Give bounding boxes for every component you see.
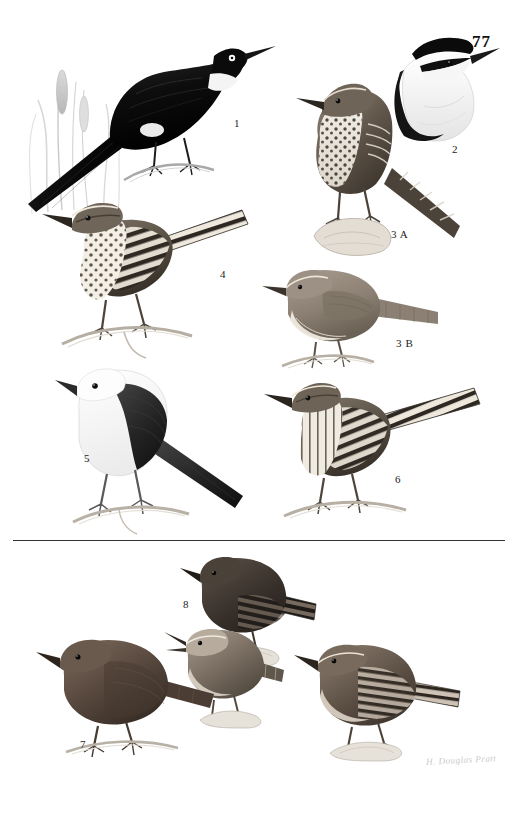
figure-1-bird [18,22,248,217]
figure-3a-bill [296,98,324,110]
section-divider [13,540,505,541]
figure-9-eye [332,659,337,664]
figure-1-bill [244,46,276,60]
figure-5-tail [155,440,243,508]
figure-8-bill [180,568,200,582]
figure-3b-label: 3 B [396,337,413,349]
figure-7-label: 7 [80,738,86,750]
figure-8-eye [212,571,217,576]
illustration-plate: 77 [0,0,520,813]
figure-6-bird [258,370,493,525]
figure-4-eye [86,216,91,221]
figure-1-belly-patch [140,123,164,137]
figure-6-tail [378,388,480,432]
figure-6-eye [306,396,311,401]
figure-4-label: 4 [220,268,226,280]
figure-3a-eye [336,99,341,104]
figure-6-label: 6 [395,473,401,485]
figure-9-bird [296,635,476,765]
figure-7-bill [36,652,60,668]
figure-7-eye [76,655,81,660]
figure-4-bill [42,214,72,228]
figure-7-bird [38,630,223,760]
figure-5-label: 5 [84,452,90,464]
figure-1-label: 1 [234,117,240,129]
figure-3b-eye [298,285,302,289]
figure-3a-bird [288,72,468,262]
figure-3b-bill [262,286,286,296]
figure-2-bill [470,48,500,64]
figure-5-bird [55,358,260,538]
figure-2-eye [447,60,452,65]
figure-3a-label: 3 A [391,228,408,240]
figure-8-label: 8 [183,598,189,610]
figure-5-eye [92,383,98,389]
figure-6-bill [264,394,292,408]
figure-9-bill [294,655,318,671]
figure-3b-bird [262,258,447,373]
figure-5-bill [55,380,77,396]
